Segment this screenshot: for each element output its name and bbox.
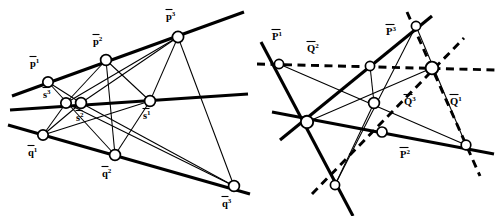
point-label-P3: P3 [386,25,397,38]
point-label-q2: q2 [102,167,112,180]
node-node-left[interactable] [301,116,313,128]
node-node-upper[interactable] [365,61,374,70]
point-label-text-P2: P2 [400,148,410,160]
left-diagram-panel: p1p2p3s3s2s1q1q2q3 [0,0,252,216]
node-q3[interactable] [229,181,240,192]
point-label-q1: q1 [28,146,38,159]
point-label-text-Q3: Q3 [404,95,416,107]
node-node-bottom[interactable] [330,180,339,189]
point-label-P2: P2 [400,148,411,161]
point-label-Q3: Q3 [404,95,417,108]
node-s3[interactable] [61,98,71,108]
dashed-line-line-Q2 [257,64,496,70]
point-label-s3: s3 [43,88,52,101]
point-label-text-p2: p2 [93,35,103,47]
node-P1[interactable] [274,59,283,68]
dashed-line-line-Q3 [312,38,464,194]
point-label-q3: q3 [222,197,232,210]
node-node-right[interactable] [461,140,471,150]
point-label-text-s3: s3 [43,88,51,100]
point-label-text-s2: s2 [76,111,84,123]
node-P3[interactable] [411,21,420,30]
point-label-text-p3: p3 [166,10,176,22]
point-label-Q1: Q1 [450,95,463,108]
point-label-text-q2: q2 [102,167,112,179]
right-diagram-panel: P1Q2P3Q3Q1P2 [252,0,504,216]
node-q1[interactable] [38,130,48,140]
dashed-line-line-Q1 [407,12,480,176]
node-node-lower[interactable] [377,127,387,137]
point-label-text-Q2: Q2 [307,42,319,54]
node-node-hub[interactable] [426,62,439,75]
point-label-text-p1: p1 [30,57,40,69]
node-s1[interactable] [145,96,156,107]
point-label-text-P3: P3 [386,25,396,37]
node-p1[interactable] [43,77,53,87]
node-p3[interactable] [172,31,183,42]
node-node-mid[interactable] [369,98,380,109]
point-label-s1: s1 [143,109,152,122]
point-label-p1: p1 [30,57,40,70]
point-label-P1: P1 [272,30,283,43]
point-label-text-Q1: Q1 [450,95,462,107]
point-label-text-P1: P1 [272,30,282,42]
point-label-Q2: Q2 [307,42,320,55]
geometry-figure: p1p2p3s3s2s1q1q2q3 P1Q2P3Q3Q1P2 [0,0,504,216]
point-label-text-q3: q3 [222,197,232,209]
thin-line-mid-bottom [335,103,374,185]
point-label-text-s1: s1 [143,109,151,121]
point-label-p3: p3 [166,10,176,23]
thin-line-p2-q2 [106,60,115,155]
point-label-s2: s2 [76,111,85,124]
node-p2[interactable] [101,55,112,66]
thin-line-p2-s3 [66,60,106,103]
point-label-text-q1: q1 [28,146,38,158]
point-label-p2: p2 [93,35,103,48]
node-s2[interactable] [76,98,87,109]
thin-line-p3-q3 [178,37,234,186]
node-q2[interactable] [110,150,121,161]
